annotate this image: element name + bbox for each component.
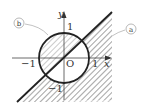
x-tick-1: 1	[92, 58, 98, 69]
label-a: a	[126, 24, 136, 34]
label-b-text: b	[17, 20, 22, 28]
origin-label: O	[66, 58, 74, 69]
y-axis-label: y	[57, 8, 64, 19]
y-tick-1: 1	[67, 21, 73, 32]
y-tick-minus-1: −1	[48, 83, 63, 94]
region-diagram: b a y x O 1 −1 −1 1	[0, 0, 144, 109]
label-b: b	[14, 18, 24, 28]
leader-line-b	[25, 24, 48, 35]
label-a-text: a	[129, 26, 133, 34]
leader-line-a	[112, 30, 125, 36]
x-tick-minus-1: −1	[21, 58, 36, 69]
x-axis-label: x	[104, 58, 110, 69]
